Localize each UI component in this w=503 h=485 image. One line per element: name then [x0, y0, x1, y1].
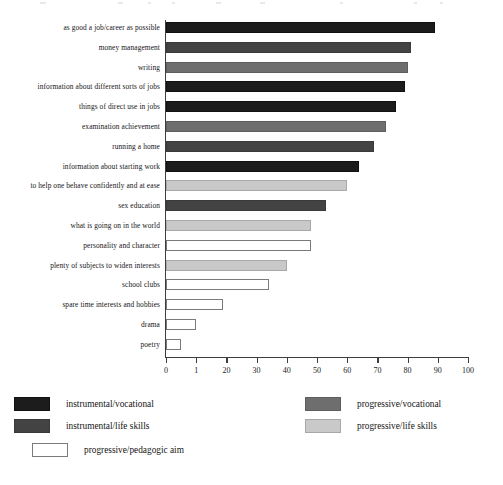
category-label: writing [0, 61, 160, 75]
bar-row: drama [0, 318, 503, 332]
bar [166, 42, 411, 53]
bar-row: as good a job/career as possible [0, 21, 503, 35]
bar [166, 62, 408, 73]
category-label: as good a job/career as possible [0, 21, 160, 35]
category-label: information about different sorts of job… [0, 80, 160, 94]
x-tick [196, 358, 197, 363]
x-tick-label: 40 [275, 366, 299, 375]
bar [166, 180, 347, 191]
bar [166, 81, 405, 92]
x-tick [257, 358, 258, 363]
bar [166, 200, 326, 211]
category-label: sex education [0, 199, 160, 213]
bar [166, 161, 359, 172]
category-label: to help one behave confidently and at ea… [0, 179, 160, 193]
legend-label: progressive/pedagogic aim [84, 442, 184, 459]
bar-row: examination achievement [0, 120, 503, 134]
x-tick-label: 100 [456, 366, 480, 375]
bar-row: to help one behave confidently and at ea… [0, 179, 503, 193]
bar-row: plenty of subjects to widen interests [0, 259, 503, 273]
bar-row: money management [0, 41, 503, 55]
chart-legend: instrumental/vocationalinstrumental/life… [0, 390, 503, 485]
legend-label: instrumental/life skills [66, 418, 149, 435]
bar-row: what is going on in the world [0, 219, 503, 233]
category-label: personality and character [0, 239, 160, 253]
bar [166, 22, 435, 33]
category-label: poetry [0, 338, 160, 352]
bar [166, 319, 196, 330]
legend-label: progressive/vocational [357, 396, 441, 413]
x-tick-label: 30 [245, 366, 269, 375]
bar-row: spare time interests and hobbies [0, 298, 503, 312]
legend-swatch [305, 419, 341, 433]
x-tick [377, 358, 378, 363]
category-label: what is going on in the world [0, 219, 160, 233]
x-tick-label: 1 [184, 366, 208, 375]
category-label: things of direct use in jobs [0, 100, 160, 114]
bar [166, 299, 223, 310]
legend-swatch [14, 419, 50, 433]
x-tick-label: 70 [365, 366, 389, 375]
legend-swatch [32, 443, 68, 457]
x-tick-label: 20 [214, 366, 238, 375]
x-tick-label: 80 [396, 366, 420, 375]
x-tick [317, 358, 318, 363]
category-label: money management [0, 41, 160, 55]
bar-row: poetry [0, 338, 503, 352]
x-tick [468, 358, 469, 363]
category-label: examination achievement [0, 120, 160, 134]
bar-row: information about different sorts of job… [0, 80, 503, 94]
bar [166, 279, 269, 290]
legend-swatch [14, 397, 50, 411]
x-tick-label: 50 [305, 366, 329, 375]
bar [166, 260, 287, 271]
bar [166, 240, 311, 251]
bar-row: sex education [0, 199, 503, 213]
category-label: spare time interests and hobbies [0, 298, 160, 312]
bar-row: running a home [0, 140, 503, 154]
category-label: plenty of subjects to widen interests [0, 259, 160, 273]
bar [166, 121, 386, 132]
legend-swatch [305, 397, 341, 411]
x-tick-label: 0 [154, 366, 178, 375]
bar [166, 101, 396, 112]
bar-row: information about starting work [0, 160, 503, 174]
x-tick-label: 60 [335, 366, 359, 375]
bar-row: school clubs [0, 278, 503, 292]
bar [166, 141, 374, 152]
category-label: drama [0, 318, 160, 332]
bar-row: things of direct use in jobs [0, 100, 503, 114]
category-label: school clubs [0, 278, 160, 292]
bar-chart: as good a job/career as possiblemoney ma… [0, 0, 503, 385]
x-tick-label: 90 [426, 366, 450, 375]
bar [166, 220, 311, 231]
category-label: running a home [0, 140, 160, 154]
x-tick [226, 358, 227, 363]
x-tick [166, 358, 167, 363]
x-tick [438, 358, 439, 363]
bar [166, 339, 181, 350]
legend-label: progressive/life skills [357, 418, 437, 435]
x-tick [408, 358, 409, 363]
x-tick [347, 358, 348, 363]
x-tick [287, 358, 288, 363]
legend-label: instrumental/vocational [66, 396, 154, 413]
category-label: information about starting work [0, 160, 160, 174]
bar-row: writing [0, 61, 503, 75]
bar-row: personality and character [0, 239, 503, 253]
